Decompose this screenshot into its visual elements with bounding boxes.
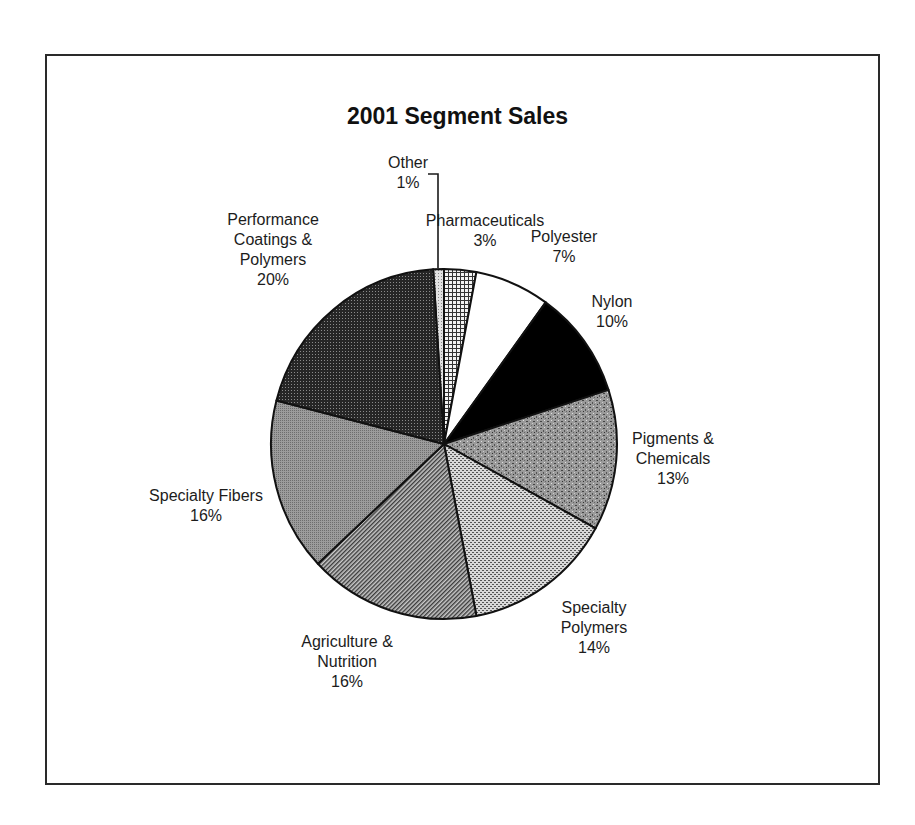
- label-polyester: Polyester7%: [531, 227, 598, 267]
- label-performance-coatings: PerformanceCoatings &Polymers20%: [227, 210, 319, 290]
- label-specialty-polymers: SpecialtyPolymers14%: [561, 598, 628, 658]
- label-pigments-chemicals: Pigments &Chemicals13%: [632, 429, 714, 489]
- pie-slices: [271, 269, 617, 619]
- label-other: Other1%: [388, 153, 428, 193]
- label-pharmaceuticals: Pharmaceuticals3%: [426, 211, 544, 251]
- pie-chart: [0, 0, 915, 825]
- label-agriculture-nutrition: Agriculture &Nutrition16%: [301, 632, 393, 692]
- label-specialty-fibers: Specialty Fibers16%: [149, 486, 263, 526]
- label-nylon: Nylon10%: [592, 292, 633, 332]
